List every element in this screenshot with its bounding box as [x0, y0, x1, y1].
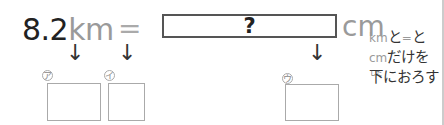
note-line-3: した下におろす: [369, 68, 439, 87]
label-a: ア: [42, 70, 53, 81]
down-arrow-icon-km: ↓: [66, 42, 84, 64]
label-u: ウ: [282, 73, 293, 84]
label-i: イ: [104, 70, 115, 81]
answer-box[interactable]: ?: [162, 14, 337, 38]
note-line-1: kmと=と: [369, 28, 439, 48]
down-arrow-icon-cm: ↓: [308, 42, 326, 64]
down-arrow-icon-eq: ↓: [118, 42, 136, 64]
input-box-u[interactable]: [285, 84, 339, 121]
note-eq: =: [402, 31, 412, 45]
note-to-1: と: [388, 29, 402, 45]
note-dakewo: だけを: [387, 49, 429, 65]
note-km: km: [369, 31, 388, 45]
note-to-2: と: [412, 29, 426, 45]
note-kanji-shita: した下: [369, 69, 383, 85]
instruction-note: kmと=と cmだけを した下におろす: [369, 28, 439, 87]
note-ruby: した: [370, 63, 382, 82]
input-box-a[interactable]: [47, 83, 101, 121]
input-box-i[interactable]: [108, 83, 145, 121]
answer-placeholder: ?: [243, 14, 255, 38]
value-number: 8.2: [22, 12, 68, 47]
note-orosu: におろす: [383, 69, 439, 85]
